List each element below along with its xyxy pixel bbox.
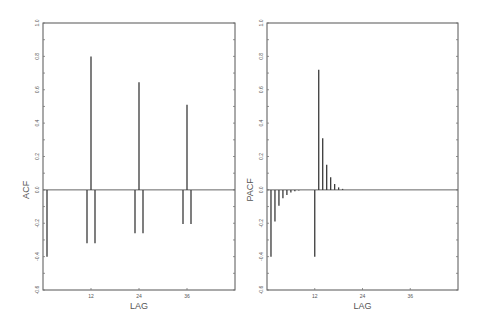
- x-tick-label: 24: [360, 293, 366, 299]
- y-tick-label: 1.0: [258, 19, 264, 26]
- acf-x-axis-label: LAG: [130, 301, 148, 311]
- acf-pacf-figure: -0.6-0.4-0.20.00.20.40.60.81.0122436LAGA…: [0, 0, 482, 332]
- acf-panel: -0.6-0.4-0.20.00.20.40.60.81.0122436LAGA…: [21, 19, 235, 311]
- pacf-panel: -0.6-0.4-0.20.00.20.40.60.81.0122436LAGP…: [245, 19, 458, 311]
- y-tick-label: -0.6: [258, 285, 264, 294]
- y-tick-label: 0.0: [34, 186, 40, 193]
- y-tick-label: -0.4: [34, 252, 40, 261]
- y-tick-label: 0.6: [34, 86, 40, 93]
- plot-frame: [267, 23, 458, 290]
- acf-y-axis-label: ACF: [21, 180, 31, 199]
- y-tick-label: 0.2: [258, 153, 264, 160]
- y-tick-label: 0.4: [34, 119, 40, 126]
- y-tick-label: -0.2: [258, 219, 264, 228]
- y-tick-label: 1.0: [34, 19, 40, 26]
- y-tick-label: -0.4: [258, 252, 264, 261]
- y-tick-label: -0.2: [34, 219, 40, 228]
- pacf-x-axis-label: LAG: [353, 301, 371, 311]
- y-tick-label: 0.0: [258, 186, 264, 193]
- y-tick-label: 0.4: [258, 119, 264, 126]
- pacf-y-axis-label: PACF: [245, 178, 255, 202]
- y-tick-label: 0.2: [34, 153, 40, 160]
- y-tick-label: 0.8: [34, 53, 40, 60]
- x-tick-label: 24: [136, 293, 142, 299]
- x-tick-label: 12: [88, 293, 94, 299]
- y-tick-label: 0.6: [258, 86, 264, 93]
- y-tick-label: -0.6: [34, 285, 40, 294]
- x-tick-label: 12: [312, 293, 318, 299]
- x-tick-label: 36: [407, 293, 413, 299]
- x-tick-label: 36: [184, 293, 190, 299]
- y-tick-label: 0.8: [258, 53, 264, 60]
